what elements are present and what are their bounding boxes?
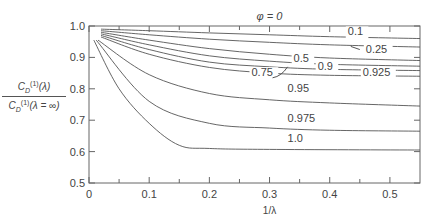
x-tick-label: 0.1 (142, 188, 157, 200)
curve-label: 0.925 (363, 66, 391, 78)
curve-label: 0.975 (288, 112, 316, 124)
curve-phi-1.0 (94, 40, 420, 150)
y-tick-label: 0.5 (70, 177, 85, 189)
curve-label: 0.95 (288, 82, 309, 94)
y-tick-label: 0.9 (70, 51, 85, 63)
chart-title: φ = 0 (257, 10, 284, 22)
y-tick-label: 0.8 (70, 83, 85, 95)
x-tick-label: 0.5 (382, 188, 397, 200)
x-tick-label: 0.2 (202, 188, 217, 200)
x-axis-label: 1/λ (263, 205, 276, 216)
curve-phi-0.1 (101, 29, 420, 38)
x-tick-label: 0.4 (322, 188, 337, 200)
chart-plot: 00.10.20.30.40.50.50.60.70.80.91.01/λφ =… (0, 0, 434, 222)
y-tick-label: 1.0 (70, 20, 85, 32)
y-tick-label: 0.7 (70, 114, 85, 126)
x-tick-label: 0 (86, 188, 92, 200)
curve-label: 0.5 (294, 52, 309, 64)
curve-label: 0.25 (366, 43, 387, 55)
curve-label: 0.9 (318, 60, 333, 72)
curve-label: 1.0 (288, 132, 303, 144)
arrow-0.25 (351, 46, 360, 49)
y-tick-label: 0.6 (70, 146, 85, 158)
x-tick-label: 0.3 (262, 188, 277, 200)
curve-label: 0.75 (251, 66, 272, 78)
curve-label: 0.1 (348, 25, 363, 37)
